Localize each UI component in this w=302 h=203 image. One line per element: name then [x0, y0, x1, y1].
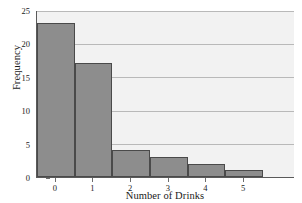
x-axis-title: Number of Drinks	[36, 190, 294, 201]
x-tick-mark	[243, 178, 244, 182]
y-tick-label: 20	[14, 40, 30, 48]
x-tick-mark	[168, 178, 169, 182]
y-tick-label: 0	[14, 174, 30, 182]
y-tick-label: 10	[14, 107, 30, 115]
y-tick-label: 15	[14, 74, 30, 82]
bar	[112, 150, 150, 177]
bar	[75, 63, 113, 177]
x-tick-mark	[130, 178, 131, 182]
gridline	[37, 11, 294, 12]
y-tick-label: 25	[14, 7, 30, 15]
bar	[150, 157, 188, 177]
x-tick-mark	[55, 178, 56, 182]
bar	[37, 23, 75, 177]
plot-inner	[37, 11, 294, 177]
y-axis-tick-labels: 0510152025	[14, 0, 30, 203]
y-tick-label: 5	[14, 141, 30, 149]
bar	[188, 164, 226, 177]
plot-area	[36, 11, 294, 178]
gridline	[37, 44, 294, 45]
x-tick-mark	[92, 178, 93, 182]
bar	[225, 170, 263, 177]
histogram-chart: Frequency 0510152025 012345 Number of Dr…	[0, 0, 302, 203]
x-tick-mark	[205, 178, 206, 182]
